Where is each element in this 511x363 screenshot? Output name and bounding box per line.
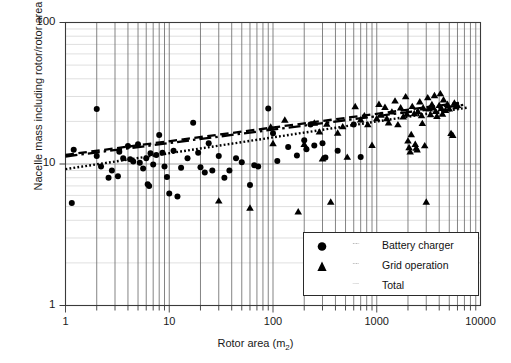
y-tick-label: 100 [0,15,56,27]
x-tick-label: 1000 [347,315,407,327]
y-tick-label: 10 [0,156,56,168]
y-tick-label: 1 [0,298,56,310]
legend-item-grid-operation: Grid operation [304,256,480,277]
chart-figure: Nacelle mass including rotor/rotor area … [0,0,511,363]
y-axis-label: Nacelle mass including rotor/rotor area [32,0,44,206]
x-axis-label-tail: ) [290,337,294,349]
legend-label-grid-operation: Grid operation [382,259,449,271]
legend-label-total: Total [382,279,404,291]
circle-marker-icon [314,236,330,257]
dotted-line-swatch [334,283,378,284]
legend-item-battery-charger: Battery charger [304,236,480,257]
legend-label-battery-charger: Battery charger [382,239,454,251]
x-tick-label: 10000 [451,315,511,327]
x-tick-label: 100 [243,315,303,327]
triangle-marker-icon [314,256,330,277]
chart-legend: Battery charger Grid operation Total [303,232,479,296]
x-tick-label: 10 [139,315,199,327]
dashed-line-swatch [334,263,378,264]
dash-dot-line-swatch [334,243,378,244]
x-axis-label: Rotor area (m2) [0,337,511,352]
legend-item-total: Total [304,276,480,297]
chart-canvas [0,0,511,363]
x-tick-label: 1 [36,315,96,327]
x-axis-label-base: Rotor area (m [218,337,286,349]
